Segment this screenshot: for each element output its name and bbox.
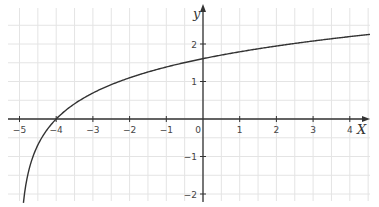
x-axis-label: X: [356, 122, 367, 137]
y-tick-label: −2: [184, 190, 197, 200]
y-tick-label: 2: [191, 40, 197, 50]
grid-lines: [8, 8, 370, 201]
y-axis-arrow-icon: [200, 4, 206, 12]
y-tick-label: −1: [184, 152, 197, 162]
axes: [8, 4, 370, 202]
x-tick-label: 1: [237, 125, 243, 135]
x-tick-label: −5: [13, 125, 26, 135]
x-tick-label: −4: [50, 125, 64, 135]
x-tick-label: −1: [160, 125, 173, 135]
x-tick-label: 0: [195, 125, 201, 135]
x-tick-label: 3: [310, 125, 316, 135]
function-plot: −5−4−3−2−101234−2−112 X y: [0, 0, 379, 207]
x-tick-label: −3: [86, 125, 99, 135]
y-axis-label: y: [192, 6, 201, 21]
x-tick-label: 4: [347, 125, 353, 135]
x-tick-label: 2: [274, 125, 280, 135]
y-tick-label: 1: [191, 77, 197, 87]
x-tick-label: −2: [123, 125, 136, 135]
